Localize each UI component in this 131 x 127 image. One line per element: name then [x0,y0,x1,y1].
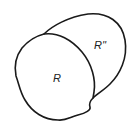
region-outlines [0,0,131,127]
diagram-canvas: R R'' [0,0,131,127]
region-r-double-prime-label: R'' [94,40,106,51]
region-r-label: R [53,73,61,84]
